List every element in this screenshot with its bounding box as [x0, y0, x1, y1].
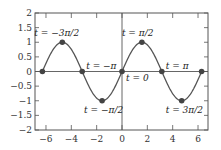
annotation-label: t = −3π/2 [34, 28, 79, 38]
data-point [59, 39, 65, 45]
y-tick-label: 0 [26, 67, 32, 77]
x-tick-label: 6 [195, 134, 201, 144]
data-point [139, 39, 145, 45]
annotation-label: t = 3π/2 [166, 105, 204, 115]
x-tick-label: −4 [65, 134, 79, 144]
data-point [159, 69, 165, 75]
x-tick-label: 4 [170, 134, 176, 144]
annotation-label: t = −π/2 [84, 105, 123, 115]
data-point [79, 69, 85, 75]
y-tick-label: −1.5 [10, 110, 32, 120]
y-tick-labels: −2−1.5−1−0.500.511.52 [10, 8, 32, 135]
x-tick-label: 2 [144, 134, 150, 144]
y-tick-label: 1 [26, 37, 32, 47]
y-tick-label: −2 [19, 125, 32, 135]
data-point [179, 98, 185, 104]
annotation-label: t = 0 [126, 73, 149, 83]
x-tick-label: 0 [119, 134, 125, 144]
y-tick-label: 2 [26, 8, 32, 18]
x-tick-label: −6 [39, 134, 53, 144]
x-tick-labels: −6−4−20246 [39, 134, 201, 144]
y-tick-label: 1.5 [18, 23, 33, 33]
y-tick-label: −0.5 [10, 81, 32, 91]
y-tick-label: −1 [19, 96, 32, 106]
data-point [40, 69, 46, 75]
sine-chart: t = −3π/2t = −πt = −π/2t = 0t = π/2t = π… [0, 0, 221, 150]
annotation-label: t = π [166, 61, 190, 71]
data-point [99, 98, 105, 104]
annotation-label: t = −π [86, 61, 117, 71]
data-point [199, 69, 205, 75]
data-point [119, 69, 125, 75]
y-tick-label: 0.5 [18, 52, 33, 62]
annotation-label: t = π/2 [122, 28, 154, 38]
x-tick-label: −2 [90, 134, 103, 144]
